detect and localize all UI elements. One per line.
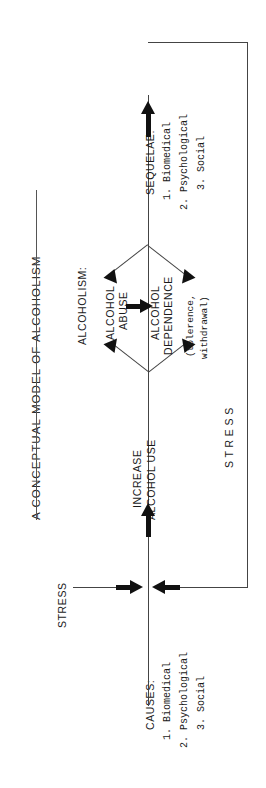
feedback-loop-right bbox=[247, 42, 248, 588]
causes-item-3: 3. Social bbox=[197, 676, 208, 730]
alcohol-abuse-line2: ABUSE bbox=[118, 291, 129, 330]
fork-top-from-abuse bbox=[111, 244, 148, 273]
causes-heading: CAUSES: bbox=[145, 680, 156, 730]
fork-top-from-dependence bbox=[147, 245, 184, 274]
increase-use-label-line1: INCREASE bbox=[132, 450, 143, 508]
sequelae-item-3: 3. Social bbox=[197, 136, 208, 190]
causes-item-2: 2. Psychological bbox=[180, 652, 191, 748]
sequelae-item-2: 2. Psychological bbox=[180, 114, 191, 210]
sequelae-item-1: 1. Biomedical bbox=[163, 122, 174, 200]
alcoholism-heading: ALCOHOLISM: bbox=[77, 267, 88, 345]
increase-use-arrow-stem bbox=[146, 515, 151, 537]
stress-feedback-label: S T R E S S bbox=[224, 407, 235, 468]
feedback-arrow-stem bbox=[164, 585, 180, 590]
sequelae-heading: SEQUELAE: bbox=[145, 130, 156, 195]
feedback-loop-bottom bbox=[178, 587, 248, 588]
causes-connector bbox=[148, 588, 149, 706]
feedback-arrowhead bbox=[152, 580, 165, 594]
stress-input-arrowhead bbox=[130, 580, 143, 594]
dependence-outbound-arrowhead bbox=[176, 269, 195, 288]
title-underline bbox=[36, 190, 37, 520]
abuse-to-dependence-arrowhead bbox=[140, 299, 153, 313]
dependence-note-line2: withdrawal) bbox=[200, 296, 210, 359]
stress-input-line bbox=[73, 587, 119, 588]
causes-item-1: 1. Biomedical bbox=[163, 662, 174, 740]
stress-input-label: STRESS bbox=[57, 582, 68, 628]
sequelae-arrowhead bbox=[141, 101, 155, 114]
feedback-loop-top bbox=[148, 42, 248, 43]
conceptual-model-figure: A CONCEPTUAL MODEL OF ALCOHOLISM CAUSES:… bbox=[0, 0, 266, 788]
dependence-note-line1: (tolerence, bbox=[186, 294, 196, 357]
alcohol-dependence-line2: DEPENDENCE bbox=[163, 276, 174, 355]
increase-use-arrowhead bbox=[141, 503, 155, 516]
alcohol-abuse-line1: ALCOHOL bbox=[105, 286, 116, 340]
